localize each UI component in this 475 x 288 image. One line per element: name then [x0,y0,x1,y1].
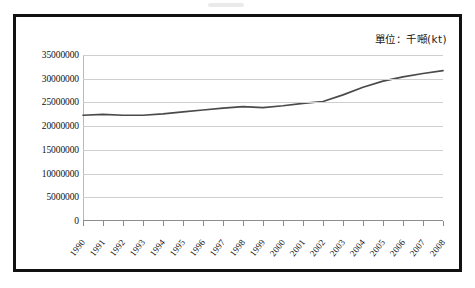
y-axis-tick-label: 35000000 [42,50,79,60]
y-axis-tick-label: 5000000 [46,192,79,202]
unit-caption: 單位：千噸(kt) [375,31,447,46]
gridline [83,150,443,151]
x-axis-tick-label: 2008 [428,237,447,258]
y-axis-tick-label: 30000000 [42,74,79,84]
y-axis-tick-label: 15000000 [42,145,79,155]
chart-figure-frame: 單位：千噸(kt) 050000001000000015000000200000… [13,14,462,272]
y-axis-tick-label: 0 [74,216,79,226]
y-axis-tick-label: 20000000 [42,121,79,131]
gridline [83,55,443,56]
gridline [83,197,443,198]
x-axis-tick-label: 1991 [88,237,107,258]
x-axis-tick-label: 2002 [308,237,327,258]
x-axis-tick-label: 2005 [368,237,387,258]
x-axis-tick-label: 1992 [108,237,127,258]
x-axis-tick-label: 1999 [248,237,267,258]
x-axis-tick-label: 2000 [268,237,287,258]
y-axis-tick-labels: 0500000010000000150000002000000025000000… [16,55,79,221]
gridline [83,126,443,127]
x-axis-tick-mark [443,221,444,226]
x-axis-tick-labels: 1990199119921993199419951996199719981999… [83,226,443,272]
gridline [83,174,443,175]
x-axis-tick-label: 1995 [168,237,187,258]
x-axis-tick-label: 2007 [408,237,427,258]
x-axis-tick-label: 1996 [188,237,207,258]
plot-area [83,55,443,221]
gridline [83,102,443,103]
x-axis-tick-label: 1990 [68,237,87,258]
data-series-line [83,71,443,116]
x-axis-tick-label: 2003 [328,237,347,258]
x-axis-tick-label: 2001 [288,237,307,258]
x-axis-tick-label: 1993 [128,237,147,258]
line-series-svg [83,55,443,221]
gridline [83,79,443,80]
x-axis-tick-label: 2006 [388,237,407,258]
x-axis-tick-label: 2004 [348,237,367,258]
x-axis-tick-label: 1998 [228,237,247,258]
y-axis-tick-label: 10000000 [42,169,79,179]
y-axis-tick-label: 25000000 [42,97,79,107]
x-axis-tick-label: 1997 [208,237,227,258]
scan-speckle-artifact [208,3,244,7]
x-axis-tick-label: 1994 [148,237,167,258]
